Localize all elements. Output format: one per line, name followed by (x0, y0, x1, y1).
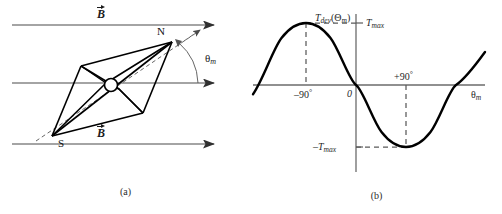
b-field-label-bottom: B (97, 123, 105, 139)
panel-b-caption: (b) (251, 190, 502, 201)
angle-arc-arrowhead (175, 39, 182, 47)
x-tick-label-pos90: +90° (394, 71, 413, 82)
figure-root: B B N S θm (a) (0, 0, 502, 214)
south-pole-label: S (58, 138, 64, 149)
pos90-text: +90 (394, 71, 410, 82)
x-tick-label-neg90: –90° (294, 89, 312, 100)
theta-subscript: m (210, 57, 216, 66)
origin-zero: 0 (347, 88, 352, 99)
neg90-text: –90 (294, 89, 309, 100)
angle-arc-group (175, 39, 198, 83)
neg-tmax-value-label: –Tmax (313, 142, 336, 154)
vector-arrow-icon (97, 4, 105, 9)
moment-axis-arrow (184, 30, 200, 41)
b-symbol-bottom: B (97, 127, 105, 139)
degree-icon: ° (410, 70, 413, 79)
b-field-label-top: B (97, 4, 105, 20)
x-axis-theta-subscript: m (476, 93, 481, 102)
origin-label: 0 (347, 89, 352, 99)
north-pole-label: N (157, 26, 165, 37)
vector-arrow-icon (97, 123, 105, 128)
panel-b-svg (251, 0, 502, 214)
b-symbol-top: B (97, 8, 105, 20)
panel-a-magnet-diagram: B B N S θm (a) (0, 0, 251, 214)
magnet-edge-left-n (81, 42, 172, 66)
angle-arc (179, 43, 198, 83)
tmax-subscript: max (372, 21, 385, 30)
panel-a-caption: (a) (0, 186, 251, 197)
neg-tmax-subscript: max (324, 145, 337, 154)
degree-icon: ° (309, 88, 312, 97)
y-axis-label: Tdev(Θm) (315, 13, 350, 25)
y-axis-label-subscript: dev (321, 16, 331, 25)
x-axis-label: θm (471, 90, 481, 102)
neg-tmax-symbol: –T (313, 141, 324, 152)
tmax-value-label: Tmax (366, 18, 384, 30)
panel-b-torque-plot: Tdev(Θm) Tmax –Tmax –90° 0 +90° θm (b) (251, 0, 502, 214)
panel-a-svg (0, 0, 251, 214)
angle-theta-m-label: θm (205, 53, 216, 66)
y-axis-label-arg-open: (Θ (331, 12, 342, 23)
y-axis-label-arg-close: ) (347, 12, 350, 23)
pivot-circle (105, 79, 118, 92)
